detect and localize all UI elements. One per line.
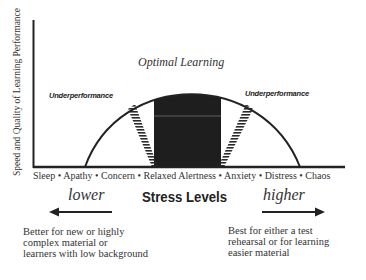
underperformance-left-label: Underperformance — [49, 91, 113, 100]
left-arrow-icon — [49, 208, 112, 217]
higher-label: higher — [263, 186, 305, 204]
underperformance-right-label: Underperformance — [245, 89, 309, 98]
right-hatched-transition — [219, 104, 253, 167]
stress-scale-labels: Sleep • Apathy • Concern • Relaxed Alert… — [33, 170, 330, 181]
optimal-learning-zone — [154, 60, 221, 168]
x-axis-title: Stress Levels — [142, 188, 227, 205]
y-axis-label: Speed and Quality of Learning Performanc… — [12, 26, 24, 176]
left-hatched-transition — [128, 104, 157, 167]
right-arrow-icon — [262, 208, 325, 217]
optimal-learning-title: Optimal Learning — [138, 55, 224, 70]
higher-stress-note: Best for either a test rehearsal or for … — [228, 225, 358, 258]
lower-stress-note: Better for new or highly complex materia… — [23, 226, 173, 259]
lower-label: lower — [68, 186, 104, 204]
